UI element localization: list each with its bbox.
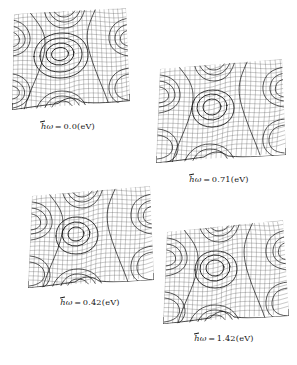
caption-3-operator: = [73, 297, 83, 307]
caption-panel-2: hω=0.71(eV) [148, 174, 290, 184]
surface-plot-4 [155, 216, 293, 330]
surface-panel-4 [155, 216, 293, 330]
caption-2-operator: = [202, 174, 212, 184]
caption-panel-1: hω=0.0(eV) [4, 121, 132, 131]
caption-4-value: 1.42(eV) [217, 333, 254, 343]
caption-3-symbol: ω [66, 297, 73, 307]
figure-canvas: hω=0.0(eV) [0, 0, 297, 365]
caption-panel-3: hω=0.42(eV) [22, 297, 158, 307]
caption-panel-4: hω=1.42(eV) [155, 333, 293, 343]
surface-plot-3 [22, 182, 158, 294]
surface-panel-2 [148, 57, 290, 169]
caption-2-symbol: ω [195, 174, 202, 184]
surface-panel-1 [4, 6, 132, 116]
caption-1-operator: = [53, 121, 63, 131]
surface-plot-1 [4, 6, 132, 116]
surface-plot-2 [148, 57, 290, 169]
caption-4-operator: = [207, 333, 217, 343]
surface-panel-3 [22, 182, 158, 294]
caption-1-value: 0.0(eV) [63, 121, 95, 131]
caption-3-value: 0.42(eV) [83, 297, 120, 307]
caption-2-value: 0.71(eV) [212, 174, 249, 184]
caption-4-symbol: ω [200, 333, 207, 343]
